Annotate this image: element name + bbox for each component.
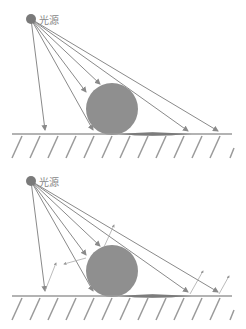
light-source	[26, 14, 36, 24]
light-source	[26, 176, 36, 186]
diagram-top: 光源	[0, 0, 246, 165]
light-source-label: 光源	[39, 12, 59, 27]
sphere	[86, 245, 138, 297]
sphere	[86, 83, 138, 135]
diagram-bottom: 光源	[0, 165, 246, 329]
light-diagram-svg	[0, 0, 246, 165]
light-source-label: 光源	[39, 174, 59, 189]
light-diagram-svg	[0, 165, 246, 329]
